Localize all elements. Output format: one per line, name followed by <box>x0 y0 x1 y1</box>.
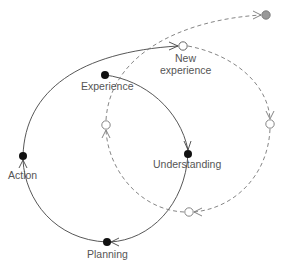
node-understanding <box>184 150 192 158</box>
edge-new-experience-right <box>188 46 270 119</box>
node-planning <box>103 238 111 246</box>
node-experience <box>101 71 109 79</box>
node-left-open <box>102 121 110 129</box>
label-action: Action <box>8 169 37 181</box>
node-right-open <box>266 120 274 128</box>
node-action <box>19 152 27 160</box>
node-new-experience <box>179 42 187 50</box>
learning-cycle-diagram: Experience Understanding Planning Action… <box>0 0 284 269</box>
edge-bottom-left <box>106 130 184 212</box>
label-new-experience-line1: New <box>175 52 196 64</box>
edge-action-new-experience <box>23 46 178 156</box>
arrowhead-understanding <box>184 141 191 150</box>
label-planning: Planning <box>87 248 128 260</box>
label-experience: Experience <box>81 80 134 92</box>
node-bottom-open <box>185 208 193 216</box>
node-top-right-terminal <box>262 11 270 19</box>
label-new-experience-line2: experience <box>160 64 212 76</box>
label-understanding: Understanding <box>153 158 221 170</box>
edge-right-bottom <box>194 129 270 212</box>
